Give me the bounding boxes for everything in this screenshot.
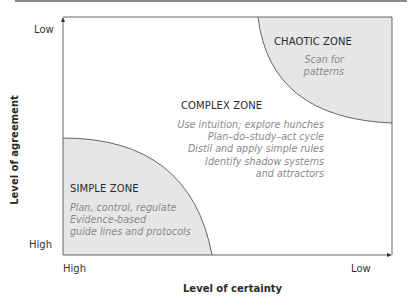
y-axis-title: Level of agreement bbox=[9, 95, 20, 205]
complex-line-2: Plan–do–study–act cycle bbox=[166, 131, 324, 143]
y-axis-arrow bbox=[61, 17, 65, 22]
simple-line-1: Plan, control, regulate bbox=[70, 202, 191, 214]
complex-line-3: Distil and apply simple rules bbox=[166, 143, 324, 155]
y-axis-end-label: Low bbox=[34, 24, 54, 35]
chaotic-line-2: patterns bbox=[300, 66, 344, 78]
complex-line-4: Identify shadow systems bbox=[166, 156, 324, 168]
chaotic-zone-title: CHAOTIC ZONE bbox=[274, 36, 352, 47]
simple-line-3: guide lines and protocols bbox=[70, 226, 191, 238]
complex-zone-title: COMPLEX ZONE bbox=[181, 100, 262, 111]
chaotic-zone-description: Scan for patterns bbox=[300, 54, 344, 78]
x-axis-end-label: Low bbox=[351, 263, 371, 274]
y-axis-start-label: High bbox=[29, 239, 52, 250]
complex-line-5: and attractors bbox=[166, 168, 324, 180]
x-axis-arrow bbox=[387, 253, 392, 257]
x-axis-title: Level of certainty bbox=[183, 283, 282, 294]
complex-line-1: Use intuition; explore hunches bbox=[166, 119, 324, 131]
x-axis-start-label: High bbox=[63, 263, 86, 274]
simple-zone-description: Plan, control, regulate Evidence-based g… bbox=[70, 202, 191, 239]
chaotic-line-1: Scan for bbox=[300, 54, 344, 66]
simple-zone-title: SIMPLE ZONE bbox=[70, 183, 139, 194]
complex-zone-description: Use intuition; explore hunches Plan–do–s… bbox=[166, 119, 324, 180]
simple-line-2: Evidence-based bbox=[70, 214, 191, 226]
